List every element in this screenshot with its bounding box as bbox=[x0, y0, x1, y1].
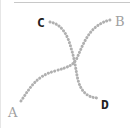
label-b: B bbox=[115, 14, 125, 29]
crossing-paths-diagram: A B C D bbox=[0, 0, 130, 128]
diagram-frame: A B C D bbox=[0, 0, 130, 128]
label-a: A bbox=[7, 105, 18, 120]
label-c: C bbox=[37, 15, 45, 30]
label-d: D bbox=[101, 97, 109, 112]
